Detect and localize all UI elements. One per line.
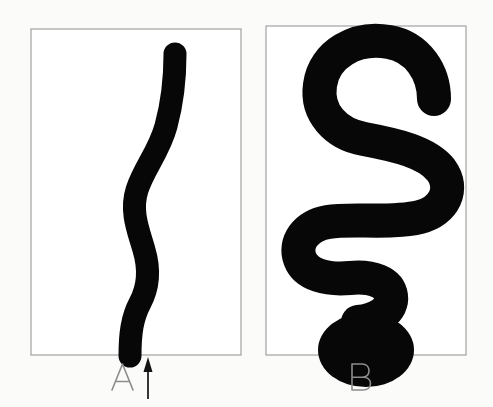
up-arrow-annotation — [144, 357, 153, 399]
panel-a-group — [31, 29, 241, 356]
figure-canvas — [0, 0, 493, 407]
letter-a-glyph — [112, 364, 133, 390]
arrow-head-icon — [144, 357, 153, 372]
panel-a-letter — [112, 364, 133, 390]
panel-b-group — [266, 26, 466, 387]
figure-container: A B — [0, 0, 493, 407]
